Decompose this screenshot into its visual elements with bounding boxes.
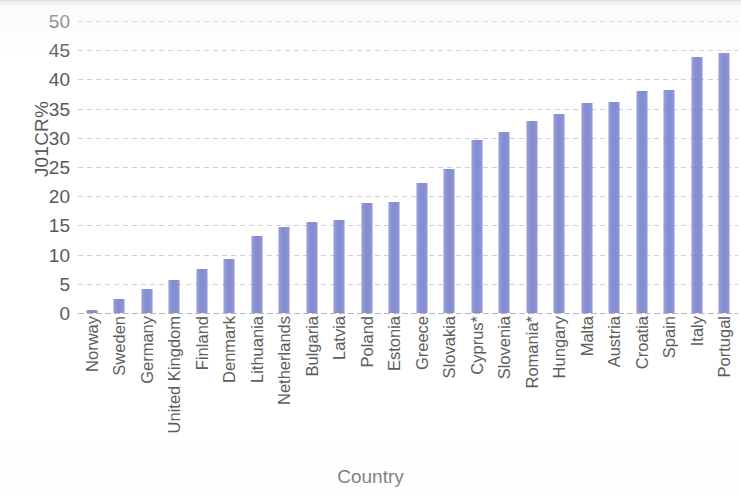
x-axis-tick-label: Hungary <box>551 316 568 378</box>
x-axis-tick-label: Greece <box>414 316 431 370</box>
x-axis-tick-label: Spain <box>661 316 678 358</box>
bar-chart-figure: J01CR% 50454035302520151050 NorwaySweden… <box>0 0 741 496</box>
bar <box>334 220 345 313</box>
y-axis-tick-label: 45 <box>30 41 70 60</box>
x-axis-tick-label: Croatia <box>634 316 651 369</box>
y-axis-tick-label: 35 <box>30 99 70 118</box>
bar-slot <box>353 21 381 313</box>
x-axis-tick-label: Romania* <box>524 316 541 388</box>
bar-slot <box>656 21 684 313</box>
x-axis-tick-label: Latvia <box>331 316 348 360</box>
x-tick-slot: Lithuania <box>243 316 271 456</box>
bar <box>416 183 427 313</box>
x-tick-slot: Portugal <box>711 316 739 456</box>
bar <box>279 227 290 313</box>
y-axis-tick-label: 50 <box>30 12 70 31</box>
x-axis-tick-label: Sweden <box>111 316 128 376</box>
y-axis-tick-labels: 50454035302520151050 <box>30 10 70 320</box>
x-tick-slot: Denmark <box>216 316 244 456</box>
x-axis-tick-labels: NorwaySwedenGermanyUnited KingdomFinland… <box>78 316 738 456</box>
x-tick-slot: Estonia <box>381 316 409 456</box>
y-axis-tick-label: 15 <box>30 216 70 235</box>
y-axis-tick-label: 5 <box>30 274 70 293</box>
x-tick-slot: Bulgaria <box>298 316 326 456</box>
x-axis-tick-label: Italy <box>689 316 706 346</box>
bar-slot <box>711 21 739 313</box>
x-tick-slot: Latvia <box>326 316 354 456</box>
x-axis-tick-label: United Kingdom <box>166 316 183 433</box>
bar-slot <box>573 21 601 313</box>
bar <box>526 121 537 313</box>
bar-slot <box>381 21 409 313</box>
bar <box>664 90 675 313</box>
x-axis-tick-label: Malta <box>579 316 596 356</box>
bar-slot <box>518 21 546 313</box>
bar <box>636 91 647 313</box>
bar-slot <box>436 21 464 313</box>
x-axis-tick-label: Lithuania <box>249 316 266 383</box>
bar <box>444 169 455 313</box>
bar <box>389 202 400 313</box>
bar-series <box>78 21 738 313</box>
x-axis-tick-label: Poland <box>359 316 376 367</box>
x-tick-slot: Romania* <box>518 316 546 456</box>
bar <box>719 53 730 313</box>
x-tick-slot: Croatia <box>628 316 656 456</box>
bar-slot <box>188 21 216 313</box>
y-axis-tick-label: 40 <box>30 70 70 89</box>
x-tick-slot: Cyprus* <box>463 316 491 456</box>
x-axis-tick-label: Denmark <box>221 316 238 383</box>
x-axis-tick-label: Slovenia <box>496 316 513 379</box>
y-axis-tick-label: 30 <box>30 128 70 147</box>
bar-slot <box>546 21 574 313</box>
x-axis-tick-label: Austria <box>606 316 623 367</box>
y-axis-tick-label: 0 <box>30 304 70 323</box>
bar <box>224 259 235 313</box>
bar <box>196 269 207 313</box>
x-axis-tick-label: Slovakia <box>441 316 458 378</box>
bar <box>361 203 372 313</box>
bar-slot <box>491 21 519 313</box>
x-tick-slot: Hungary <box>546 316 574 456</box>
x-tick-slot: Norway <box>78 316 106 456</box>
bar-slot <box>683 21 711 313</box>
x-tick-slot: Italy <box>683 316 711 456</box>
x-tick-slot: Malta <box>573 316 601 456</box>
bar-slot <box>463 21 491 313</box>
bar <box>691 57 702 313</box>
x-tick-slot: Greece <box>408 316 436 456</box>
bar-slot <box>106 21 134 313</box>
bar-slot <box>161 21 189 313</box>
bar <box>306 222 317 313</box>
bar-slot <box>628 21 656 313</box>
x-axis-tick-label: Estonia <box>386 316 403 371</box>
x-axis-tick-label: Germany <box>139 316 156 384</box>
bar-slot <box>326 21 354 313</box>
x-tick-slot: Germany <box>133 316 161 456</box>
bar <box>141 289 152 313</box>
y-axis-tick-label: 25 <box>30 158 70 177</box>
bar-slot <box>78 21 106 313</box>
bar <box>86 310 97 313</box>
y-axis-tick-label: 20 <box>30 187 70 206</box>
x-tick-slot: Poland <box>353 316 381 456</box>
bar-slot <box>271 21 299 313</box>
bar <box>554 114 565 313</box>
axis-baseline <box>78 313 738 314</box>
x-tick-slot: Netherlands <box>271 316 299 456</box>
x-axis-tick-label: Cyprus* <box>469 316 486 375</box>
x-tick-slot: Finland <box>188 316 216 456</box>
x-axis-tick-label: Portugal <box>716 316 733 377</box>
bar <box>499 132 510 313</box>
bar <box>609 102 620 313</box>
x-axis-tick-label: Norway <box>84 316 101 372</box>
x-tick-slot: Slovakia <box>436 316 464 456</box>
bar <box>471 140 482 313</box>
x-tick-slot: Spain <box>656 316 684 456</box>
bar <box>581 103 592 313</box>
bar <box>114 299 125 313</box>
x-tick-slot: Sweden <box>106 316 134 456</box>
x-axis-tick-label: Finland <box>194 316 211 370</box>
bar-slot <box>216 21 244 313</box>
bar-slot <box>408 21 436 313</box>
